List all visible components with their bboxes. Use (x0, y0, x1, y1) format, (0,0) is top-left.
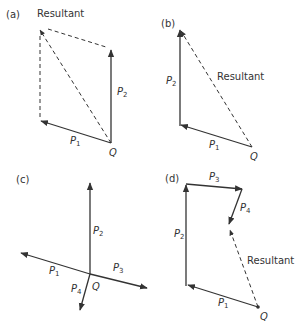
panel-b-label: (b) (161, 18, 175, 29)
panel-b: (b) Resultant P1 P2 Q (161, 18, 264, 162)
p4-arrow-c (80, 274, 90, 310)
p2-label-a: P2 (117, 86, 128, 99)
origin-point-d (256, 305, 260, 309)
p1-label-b: P1 (209, 139, 220, 152)
panel-d: (d) P3 P4 P2 Resultant P1 Q (165, 171, 294, 322)
p3-label-d: P3 (209, 171, 220, 184)
origin-label-b: Q (250, 151, 258, 162)
panel-d-label: (d) (165, 173, 179, 184)
p1-label-c: P1 (49, 265, 60, 278)
panel-a-label: (a) (6, 9, 20, 20)
panel-a: (a) Resultant P1 P2 Q (6, 8, 128, 158)
resultant-label-d: Resultant (247, 255, 294, 266)
panel-c: (c) P1 P2 P3 P4 Q (16, 174, 147, 310)
force-vector-diagram: (a) Resultant P1 P2 Q (b) Resultant P1 P… (0, 0, 296, 331)
parallelogram-top-dashed (48, 29, 106, 47)
origin-label-c: Q (92, 281, 100, 292)
p2-label-c: P2 (93, 225, 104, 238)
resultant-arrow-b (181, 31, 252, 147)
p3-label-c: P3 (113, 262, 124, 275)
p3-arrow-d (186, 184, 242, 189)
p4-label-d: P4 (240, 202, 251, 215)
resultant-arrow-d (230, 230, 258, 307)
p4-label-c: P4 (71, 283, 82, 296)
p2-label-b: P2 (166, 75, 177, 88)
p2-label-d: P2 (174, 228, 185, 241)
p1-label-d: P1 (218, 297, 229, 310)
origin-label-d: Q (260, 311, 268, 322)
resultant-label-b: Resultant (217, 71, 264, 82)
resultant-arrow-a (40, 30, 111, 143)
p1-label-a: P1 (70, 135, 81, 148)
panel-c-label: (c) (16, 174, 29, 185)
origin-label-a: Q (109, 147, 117, 158)
resultant-label-a: Resultant (37, 8, 84, 19)
